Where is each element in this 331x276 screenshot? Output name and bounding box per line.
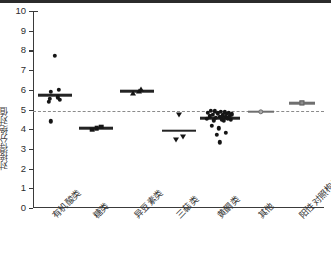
y-tick: 10 [29, 11, 33, 12]
data-point [223, 131, 227, 135]
y-tick-label: 10 [15, 6, 26, 16]
y-tick-label: 8 [21, 46, 26, 56]
data-point [130, 91, 136, 96]
data-point [299, 100, 304, 105]
data-point [214, 133, 218, 137]
plot-area: 012345678910 [33, 11, 324, 208]
y-axis-top-tick [33, 11, 38, 12]
y-tick-label: 4 [21, 124, 26, 134]
data-point [94, 126, 99, 131]
y-axis-line [33, 11, 34, 208]
data-point [90, 127, 95, 132]
data-point [217, 140, 221, 144]
y-tick: 2 [29, 169, 33, 170]
data-point [221, 119, 225, 123]
y-tick: 9 [29, 31, 33, 32]
y-axis-title-text: 对接得分绝对值 [1, 107, 11, 170]
data-point [136, 88, 142, 93]
x-axis-labels: 有机酸类糖类异豆素类三萜类黄酮类其他阳性对照枸橼酸 [33, 208, 324, 276]
chart-figure: 对接得分绝对值 012345678910 有机酸类糖类异豆素类三萜类黄酮类其他阳… [0, 0, 331, 276]
data-point [180, 135, 186, 140]
data-point [99, 124, 104, 129]
data-point [258, 109, 263, 114]
data-point [216, 126, 220, 130]
data-point [204, 117, 208, 121]
data-point [57, 97, 61, 101]
data-point [211, 118, 215, 122]
data-point [209, 123, 213, 127]
y-tick-label: 9 [21, 26, 26, 36]
data-point [53, 54, 57, 58]
y-tick: 7 [29, 70, 33, 71]
y-axis-title: 对接得分绝对值 [1, 107, 14, 170]
y-tick: 8 [29, 50, 33, 51]
group-mean-bar [162, 129, 196, 132]
y-tick: 6 [29, 90, 33, 91]
y-tick-label: 3 [21, 144, 26, 154]
y-tick-label: 0 [21, 203, 26, 213]
y-tick: 3 [29, 149, 33, 150]
data-point [176, 112, 182, 117]
data-point [47, 100, 51, 104]
data-point [49, 119, 53, 123]
y-tick-label: 5 [21, 105, 26, 115]
y-tick: 4 [29, 129, 33, 130]
y-tick: 1 [29, 188, 33, 189]
y-tick-label: 1 [21, 184, 26, 194]
data-point [57, 88, 61, 92]
data-point [228, 118, 232, 122]
y-tick-label: 6 [21, 85, 26, 95]
y-tick-label: 7 [21, 65, 26, 75]
data-point [173, 138, 179, 143]
y-tick-label: 2 [21, 164, 26, 174]
top-edge-band [0, 0, 331, 3]
